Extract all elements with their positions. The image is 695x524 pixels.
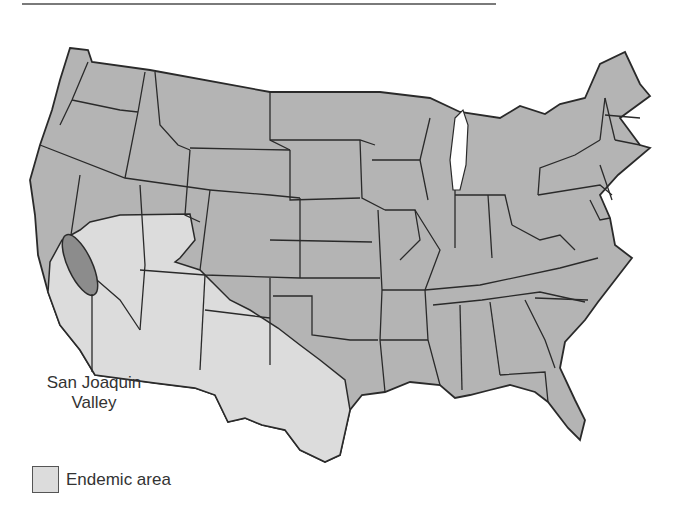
- endemic-area-swatch: [32, 466, 59, 493]
- legend: Endemic area: [32, 466, 171, 493]
- valley-label: San Joaquin Valley: [30, 373, 158, 413]
- valley-label-line2: Valley: [30, 393, 158, 413]
- valley-label-line1: San Joaquin: [30, 373, 158, 393]
- us-map: [0, 0, 695, 524]
- legend-label: Endemic area: [66, 470, 171, 490]
